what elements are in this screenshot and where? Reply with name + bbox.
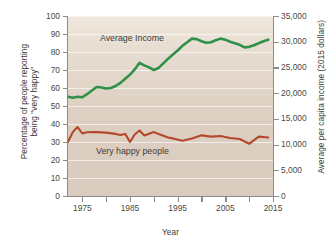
x-axis-tick <box>178 197 179 202</box>
y-axis-left-tick <box>63 160 68 161</box>
y-axis-left-tick-label: 70 <box>34 66 60 75</box>
plot-area <box>68 16 273 196</box>
y-axis-right-tick <box>274 16 279 17</box>
y-axis-right-tick <box>274 145 279 146</box>
y-axis-right-tick-label: 5,000 <box>281 166 321 175</box>
y-axis-right-tick-label: 30,000 <box>281 37 321 46</box>
x-axis-tick <box>130 197 131 202</box>
y-axis-right-tick <box>274 93 279 94</box>
y-axis-left-tick <box>63 178 68 179</box>
x-axis-tick-label: 1975 <box>62 204 102 213</box>
line-average-income <box>68 39 268 98</box>
series-label-average-income: Average Income <box>100 33 164 43</box>
x-axis-tick-label: 2005 <box>205 204 245 213</box>
y-axis-left-tick-label: 90 <box>34 30 60 39</box>
y-axis-left-tick-label: 60 <box>34 84 60 93</box>
y-axis-left-tick <box>63 124 68 125</box>
y-axis-right-tick-label: 15,000 <box>281 114 321 123</box>
x-axis-tick <box>106 197 107 202</box>
y-axis-right-tick <box>274 42 279 43</box>
x-axis-tick <box>273 197 274 202</box>
x-axis-tick <box>82 197 83 202</box>
y-axis-right-tick <box>274 196 279 197</box>
x-axis-tick-label: 1985 <box>110 204 150 213</box>
x-axis-tick-label: 2015 <box>253 204 293 213</box>
x-axis-tick <box>201 197 202 202</box>
y-axis-left-tick <box>63 52 68 53</box>
x-axis-tick <box>154 197 155 202</box>
y-axis-left-tick-label: 40 <box>34 120 60 129</box>
y-axis-left-tick-label: 10 <box>34 174 60 183</box>
y-axis-right-tick-label: 0 <box>281 192 321 201</box>
y-axis-left-tick <box>63 88 68 89</box>
y-axis-right-tick-label: 35,000 <box>281 12 321 21</box>
y-axis-left-tick-label: 50 <box>34 102 60 111</box>
y-axis-left-tick-label: 30 <box>34 138 60 147</box>
y-axis-right-tick-label: 10,000 <box>281 140 321 149</box>
y-axis-left-tick <box>63 142 68 143</box>
y-axis-left-tick-label: 80 <box>34 48 60 57</box>
x-axis-title: Year <box>68 228 273 238</box>
x-axis-tick-label: 1995 <box>158 204 198 213</box>
series-label-very-happy-people: Very happy people <box>96 146 169 156</box>
y-axis-left-tick-label: 100 <box>34 12 60 21</box>
x-axis-tick <box>225 197 226 202</box>
y-axis-right-tick-label: 25,000 <box>281 63 321 72</box>
y-axis-left-tick-label: 0 <box>34 192 60 201</box>
y-axis-left-tick <box>63 34 68 35</box>
y-axis-left-tick <box>63 106 68 107</box>
y-axis-left-tick <box>63 196 68 197</box>
chart-figure: Percentage of people reporting being "ve… <box>0 0 332 246</box>
y-axis-right-tick <box>274 170 279 171</box>
x-axis-tick <box>249 197 250 202</box>
y-axis-right-tick <box>274 67 279 68</box>
line-very-happy-people <box>68 127 268 144</box>
y-axis-left-tick <box>63 16 68 17</box>
axis-spine-bottom <box>67 196 275 197</box>
y-axis-left-tick-label: 20 <box>34 156 60 165</box>
y-axis-left-tick <box>63 70 68 71</box>
y-axis-right-tick-label: 20,000 <box>281 89 321 98</box>
series-container <box>68 16 273 196</box>
y-axis-right-tick <box>274 119 279 120</box>
